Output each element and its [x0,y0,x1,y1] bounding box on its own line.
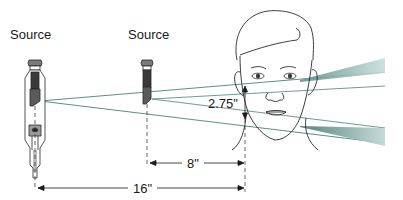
vertical-dimension-label: 2.75" [206,97,240,110]
vertical-dimension [243,86,248,119]
near-source-label: Source [128,28,169,41]
near-distance-label: 8" [185,157,201,170]
far-source-tube [25,60,45,178]
lower-beam-wedge [300,126,385,146]
diagram-stage: Source Source 2.75" 8" 16" [0,0,403,200]
eyes [252,73,296,79]
diagram-canvas [0,0,403,200]
far-distance-label: 16" [131,182,154,195]
far-source-label: Source [10,28,51,41]
near-source-tube [141,60,153,104]
near-source-beam [152,86,385,128]
